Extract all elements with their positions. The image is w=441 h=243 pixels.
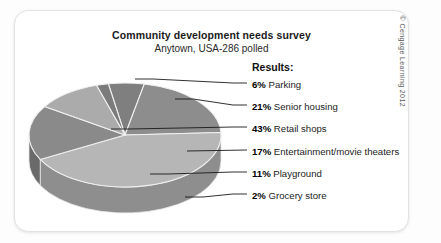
legend-label: Retail shops [271,123,326,134]
pie-chart-svg [23,63,238,228]
legend-label: Playground [271,168,322,179]
results-heading: Results: [252,61,293,73]
page-title: Community development needs survey [15,29,408,41]
page-subtitle: Anytown, USA-286 polled [15,43,408,54]
legend-label: Entertainment/movie theaters [271,146,399,157]
legend-label: Grocery store [266,190,327,201]
pie-chart [23,63,238,228]
legend-percent: 2% [252,190,266,201]
legend-percent: 17% [252,146,271,157]
legend-percent: 6% [252,79,266,90]
legend-label: Parking [266,79,301,90]
chart-card: Community development needs survey Anyto… [14,10,409,232]
legend-item-entertainment-movie-theaters: 17% Entertainment/movie theaters [252,146,399,157]
pie-top-faces [29,83,221,187]
legend-item-senior-housing: 21% Senior housing [252,101,338,112]
screenshot-root: Community development needs survey Anyto… [0,0,441,243]
legend-label: Senior housing [271,101,338,112]
legend-item-grocery-store: 2% Grocery store [252,190,327,201]
copyright-notice: © Cengage Learning 2012 [399,16,406,107]
legend-item-parking: 6% Parking [252,79,301,90]
legend-item-playground: 11% Playground [252,168,322,179]
legend-percent: 21% [252,101,271,112]
legend-percent: 11% [252,168,271,179]
legend-item-retail-shops: 43% Retail shops [252,123,327,134]
legend-percent: 43% [252,123,271,134]
